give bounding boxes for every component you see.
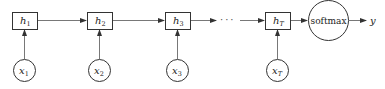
svg-text:softmax: softmax (311, 16, 347, 26)
input-node-x3: x3 (167, 60, 189, 82)
rnn-diagram: h1 h2 h3 hT ··· softmax y x1 x2 x3 xT (0, 0, 385, 89)
input-node-x2: x2 (89, 60, 111, 82)
hidden-node-h3: h3 (166, 13, 191, 30)
ellipsis: ··· (220, 14, 236, 25)
output-y: y (369, 15, 376, 26)
hidden-node-h2: h2 (88, 13, 113, 30)
input-node-xT: xT (267, 60, 289, 82)
softmax-node: softmax (309, 1, 349, 41)
input-node-x1: x1 (14, 60, 36, 82)
hidden-node-h1: h1 (13, 13, 38, 30)
hidden-node-hT: hT (266, 13, 291, 30)
